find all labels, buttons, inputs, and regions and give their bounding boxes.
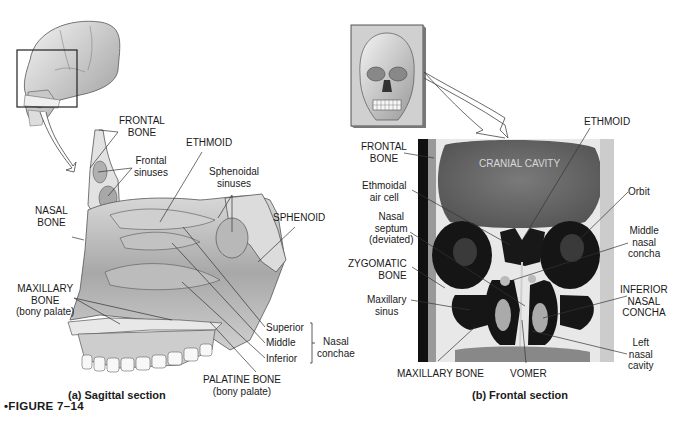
label-vomer: VOMER [510,368,547,380]
label-middle-nasal-concha: Middlenasalconcha [628,225,660,260]
arrow-sagittal [40,112,76,172]
label-maxillary-sinus: Maxillarysinus [367,294,406,317]
label-zygomatic-bone: ZYGOMATICBONE [348,258,407,281]
label-maxillary-bone-a: MAXILLARYBONE(bony palate) [16,283,74,318]
label-middle-concha: Middle [266,337,295,349]
label-nasal-bone: NASALBONE [35,205,68,228]
label-nasal-conchae: Nasalconchae [317,336,355,359]
caption-frontal: (b) Frontal section [472,389,568,401]
label-orbit: Orbit [628,186,650,198]
frontal-skull-thumbnail [351,25,426,128]
label-inferior-concha: Inferior [266,353,297,365]
nasal-conchae-bracket [310,323,315,363]
label-frontal-sinuses: Frontalsinuses [134,155,168,178]
figure-number: •FIGURE 7–14 [4,400,84,412]
arrow-frontal [424,72,508,138]
label-ethmoid-a: ETHMOID [186,137,232,149]
label-inferior-nasal-concha: INFERIORNASALCONCHA [620,284,668,319]
label-sphenoid: SPHENOID [273,212,325,224]
ct-frontal-scan [418,139,614,362]
lateral-skull-thumbnail [17,21,120,126]
label-frontal-bone-b: FRONTALBONE [361,141,407,164]
label-palatine-bone: PALATINE BONE(bony palate) [203,374,281,397]
label-ethmoidal-air-cell: Ethmoidalair cell [362,180,406,203]
label-cranial-cavity: CRANIAL CAVITY [479,158,560,169]
label-ethmoid-b: ETHMOID [584,116,630,128]
label-frontal-bone-a: FRONTALBONE [119,115,165,138]
label-nasal-septum: Nasalseptum(deviated) [369,211,413,246]
label-sphenoidal-sinuses: Sphenoidalsinuses [209,166,259,189]
label-superior-concha: Superior [266,322,304,334]
label-left-nasal-cavity: Leftnasalcavity [628,337,654,372]
label-maxillary-bone-b: MAXILLARY BONE [397,368,484,380]
